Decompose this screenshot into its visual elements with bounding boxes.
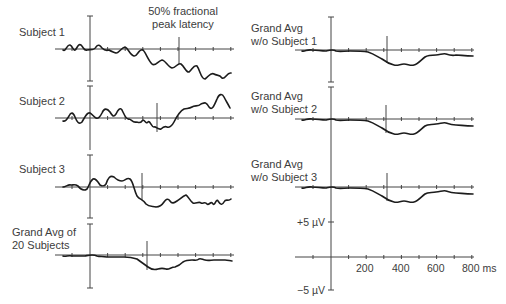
label-ga-wo-s3-line-1: Grand Avg: [251, 158, 317, 171]
waveform-subject-3: [63, 176, 231, 207]
label-ga-wo-s2: Grand Avg w/o Subject 2: [251, 90, 317, 116]
scale-minus-5uv: −5 µV: [297, 284, 325, 297]
waveform-ga-wo-s2: [302, 119, 473, 134]
tick-label-600: 600: [427, 262, 445, 275]
label-grand-avg: Grand Avg of 20 Subjects: [12, 226, 76, 252]
label-ga-wo-s3: Grand Avg w/o Subject 3: [251, 158, 317, 184]
label-ga-wo-s2-line-1: Grand Avg: [251, 90, 317, 103]
label-subject-3: Subject 3: [19, 163, 65, 176]
label-ga-wo-s1-line-2: w/o Subject 1: [251, 35, 317, 48]
tick-label-400: 400: [392, 262, 410, 275]
waveform-subject-2: [63, 95, 230, 130]
panel-subject-3-axes: [55, 155, 234, 218]
label-ga-wo-s1-line-1: Grand Avg: [251, 22, 317, 35]
label-subject-2: Subject 2: [19, 95, 65, 108]
annotation-label: 50% fractional peak latency: [138, 5, 228, 31]
tick-label-200: 200: [356, 262, 374, 275]
panel-ga-wo-s1-axes: [295, 17, 474, 82]
tick-label-800-ms: 800 ms: [462, 262, 496, 275]
label-ga-wo-s1: Grand Avg w/o Subject 1: [251, 22, 317, 48]
label-ga-wo-s3-line-2: w/o Subject 3: [251, 171, 317, 184]
label-grand-avg-line-1: Grand Avg of: [12, 226, 76, 239]
label-ga-wo-s2-line-2: w/o Subject 2: [251, 103, 317, 116]
scale-plus-5uv: +5 µV: [297, 216, 325, 229]
label-grand-avg-line-2: 20 Subjects: [12, 239, 76, 252]
panel-subject-2-axes: [55, 86, 234, 150]
annotation-line-2: peak latency: [138, 18, 228, 31]
scale-axes: [295, 222, 474, 290]
label-subject-1: Subject 1: [19, 26, 65, 39]
waveform-subject-1: [63, 45, 231, 79]
annotation-line-1: 50% fractional: [138, 5, 228, 18]
